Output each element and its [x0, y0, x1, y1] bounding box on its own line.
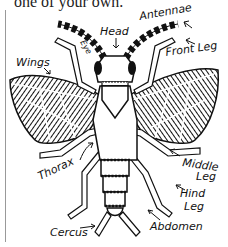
- label-thorax: Thorax: [36, 155, 77, 183]
- head: [94, 56, 136, 82]
- right-eye: [128, 61, 136, 75]
- label-wings: Wings: [16, 56, 50, 69]
- label-eye: Eye: [78, 39, 93, 56]
- abdomen: [93, 86, 137, 216]
- label-antennae: Antennae: [137, 1, 193, 23]
- label-middle-leg-line2: Leg: [196, 170, 216, 183]
- left-eye: [94, 61, 102, 75]
- insect-diagram: Head Antennae Eye Front Leg Wings Thorax…: [0, 0, 228, 247]
- label-head: Head: [100, 25, 130, 38]
- label-hind-leg-line2: Leg: [184, 200, 204, 213]
- label-abdomen: Abdomen: [149, 220, 203, 233]
